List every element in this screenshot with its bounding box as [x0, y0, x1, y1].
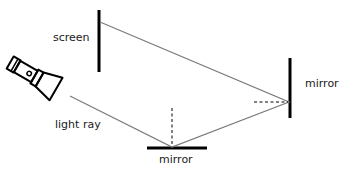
- mirror-right-label: mirror: [305, 77, 339, 90]
- screen-label: screen: [53, 31, 90, 44]
- diagram-canvas: [0, 0, 350, 176]
- light-ray: [70, 22, 289, 147]
- mirror-bottom-label: mirror: [159, 153, 193, 166]
- flashlight-icon: [4, 51, 63, 100]
- light-ray-label: light ray: [55, 118, 101, 131]
